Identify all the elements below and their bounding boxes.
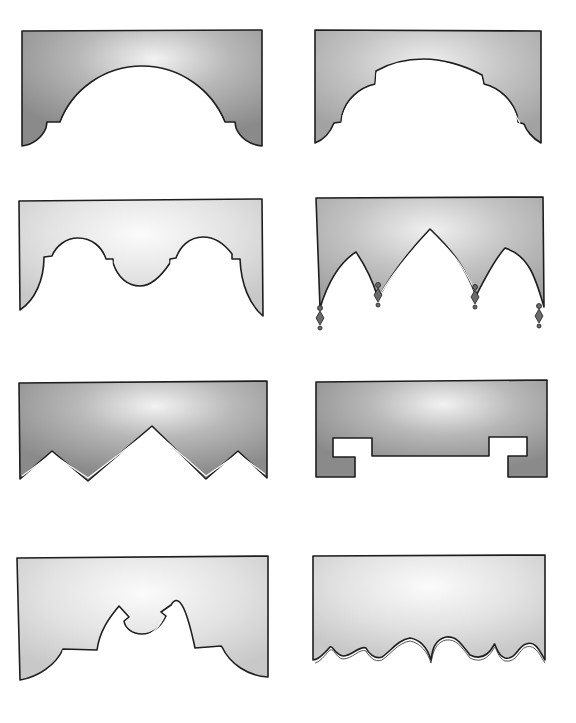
shape-1-arched-cornice [22,30,262,146]
tassel-icon [535,304,543,329]
shape-6-keyed-cornice [316,380,547,477]
shape-7-keyhole-arch-valance [17,556,268,680]
tassels [316,283,543,331]
shape-8-wavy-hem-valance [313,555,545,663]
shape-2-stepped-arch-cornice [315,30,541,143]
valance-shapes-figure [0,0,576,723]
tassel-icon [316,306,324,331]
shape-3-double-arch-valance [19,199,263,316]
shape-4-gothic-arch-valance [316,197,544,330]
shape-5-zigzag-cornice [19,381,267,481]
